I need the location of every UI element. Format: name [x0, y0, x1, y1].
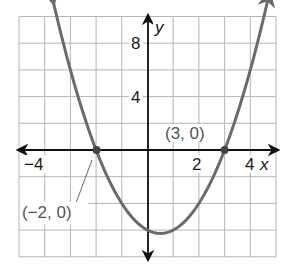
y-tick-8: 8	[131, 34, 140, 53]
annotation-3-0: (3, 0)	[165, 124, 205, 143]
y-tick-4: 4	[131, 88, 140, 107]
parabola-graph: −4 2 4 x 8 4 y (3, 0) (−2, 0)	[0, 0, 282, 268]
point-neg2-0	[93, 146, 101, 154]
x-axis-label: x	[259, 155, 269, 174]
x-tick-2: 2	[192, 155, 201, 174]
x-tick-4: 4	[245, 155, 254, 174]
annotation-neg2-0: (−2, 0)	[22, 203, 72, 222]
leader-line	[76, 160, 92, 203]
point-3-0	[221, 146, 229, 154]
y-axis-label: y	[154, 18, 165, 37]
x-tick-neg4: −4	[24, 155, 43, 174]
